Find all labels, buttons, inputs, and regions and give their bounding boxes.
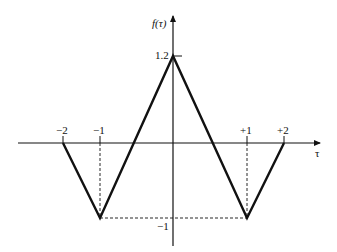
peak-label: 1.2 bbox=[155, 49, 169, 61]
min-label: −1 bbox=[157, 220, 169, 232]
tick-label-p2: +2 bbox=[277, 124, 289, 136]
tick-label-m1: −1 bbox=[93, 124, 105, 136]
chart-canvas: f(τ) τ 1.2 −1 −2 −1 +1 +2 bbox=[0, 0, 337, 252]
x-axis-label: τ bbox=[315, 147, 320, 159]
tick-label-p1: +1 bbox=[240, 124, 252, 136]
tick-label-m2: −2 bbox=[56, 124, 68, 136]
y-axis-label: f(τ) bbox=[152, 17, 167, 30]
